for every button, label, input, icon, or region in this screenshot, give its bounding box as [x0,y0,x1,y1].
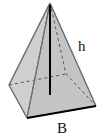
base-label: B [57,120,67,136]
pyramid-diagram: h B [0,0,107,138]
pyramid-svg: h B [0,0,107,138]
height-label: h [78,38,86,54]
